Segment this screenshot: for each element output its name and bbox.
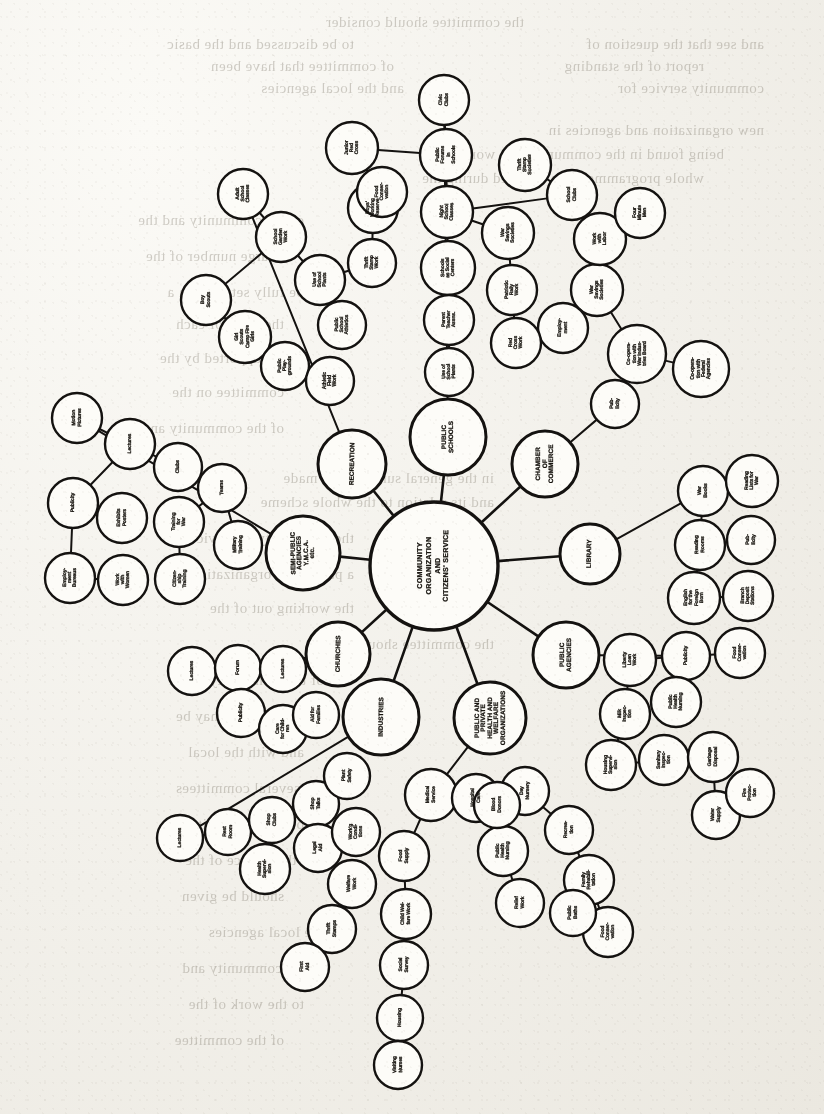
edge xyxy=(570,420,597,443)
satellite-node-circle xyxy=(281,943,329,991)
satellite-node-circle xyxy=(608,325,666,383)
edge xyxy=(298,256,303,262)
edge xyxy=(90,462,112,485)
hub-node-chamber-circle xyxy=(512,431,578,497)
edge xyxy=(225,253,262,284)
node-circle-layer xyxy=(45,75,778,1089)
edge xyxy=(665,361,674,363)
satellite-node-circle xyxy=(419,75,469,125)
satellite-node-circle xyxy=(615,188,665,238)
edge xyxy=(472,220,484,224)
satellite-node-circle xyxy=(306,357,354,405)
satellite-node-circle xyxy=(499,139,551,191)
satellite-node-circle xyxy=(550,890,596,936)
satellite-node-circle xyxy=(52,393,102,443)
edge xyxy=(340,557,370,560)
satellite-node-circle xyxy=(591,380,639,428)
satellite-node-circle xyxy=(723,571,773,621)
satellite-node-circle xyxy=(157,815,203,861)
edge xyxy=(414,819,420,833)
satellite-node-circle xyxy=(727,516,775,564)
satellite-node-circle xyxy=(380,941,428,989)
edge xyxy=(71,528,72,553)
satellite-node-circle xyxy=(405,769,457,821)
satellite-node-circle xyxy=(357,167,407,217)
satellite-node-circle xyxy=(487,265,537,315)
satellite-node-circle xyxy=(726,769,774,817)
satellite-node-circle xyxy=(600,689,650,739)
hub-node-recreation-circle xyxy=(318,430,386,498)
scanned-page: the committee should considerand see tha… xyxy=(0,0,824,1114)
satellite-node-circle xyxy=(377,995,423,1041)
edge xyxy=(373,490,394,516)
community-organization-chart: COMMUNITY ORGANIZATION AND CITIZENS' SER… xyxy=(0,0,824,1114)
edge xyxy=(447,747,468,775)
satellite-node-circle xyxy=(662,632,710,680)
satellite-node-circle xyxy=(421,186,473,238)
satellite-node-circle xyxy=(48,478,98,528)
satellite-node-circle xyxy=(240,844,290,894)
satellite-node-circle xyxy=(198,464,246,512)
core-node-circle xyxy=(370,502,498,630)
satellite-node-circle xyxy=(688,732,738,782)
satellite-node-circle xyxy=(482,207,534,259)
chart-svg xyxy=(0,0,824,1114)
edge xyxy=(362,609,387,632)
satellite-node-circle xyxy=(348,239,396,287)
satellite-node-circle xyxy=(538,303,588,353)
hub-node-public-agencies-circle xyxy=(533,622,599,688)
satellite-node-circle xyxy=(324,753,370,799)
edge xyxy=(228,511,231,522)
satellite-node-circle xyxy=(374,1041,422,1089)
satellite-node-circle xyxy=(249,797,295,843)
hub-node-semi-public-circle xyxy=(266,516,340,590)
satellite-node-circle xyxy=(381,889,431,939)
satellite-node-circle xyxy=(424,295,474,345)
edge xyxy=(441,475,444,503)
edge xyxy=(498,556,560,561)
hub-node-public-schools-circle xyxy=(410,399,486,475)
edge xyxy=(481,486,521,522)
edge xyxy=(378,150,420,153)
satellite-node-circle xyxy=(295,255,345,305)
satellite-node-circle xyxy=(214,521,262,569)
hub-node-industries-circle xyxy=(343,679,419,755)
satellite-node-circle xyxy=(261,342,309,390)
satellite-node-circle xyxy=(215,645,261,691)
satellite-node-circle xyxy=(420,129,472,181)
satellite-node-circle xyxy=(217,689,265,737)
satellite-node-circle xyxy=(45,553,95,603)
satellite-node-circle xyxy=(98,555,148,605)
satellite-node-circle xyxy=(218,169,268,219)
satellite-node-circle xyxy=(154,497,204,547)
satellite-node-circle xyxy=(105,419,155,469)
satellite-node-circle xyxy=(474,782,520,828)
edge xyxy=(394,626,413,681)
satellite-node-circle xyxy=(256,212,306,262)
satellite-node-circle xyxy=(379,831,429,881)
satellite-node-circle xyxy=(491,318,541,368)
edge xyxy=(456,626,477,684)
satellite-node-circle xyxy=(496,879,544,927)
satellite-node-circle xyxy=(651,677,701,727)
edge xyxy=(487,602,539,637)
satellite-node-circle xyxy=(421,241,475,295)
satellite-node-circle xyxy=(639,735,689,785)
satellite-node-circle xyxy=(326,122,378,174)
satellite-node-circle xyxy=(318,301,366,349)
satellite-node-circle xyxy=(181,275,231,325)
satellite-node-circle xyxy=(726,455,778,507)
satellite-node-circle xyxy=(205,809,251,855)
satellite-node-circle xyxy=(545,806,593,854)
satellite-node-circle xyxy=(168,647,216,695)
satellite-node-circle xyxy=(675,520,725,570)
satellite-node-circle xyxy=(604,634,656,686)
edge xyxy=(616,503,681,539)
satellite-node-circle xyxy=(478,826,528,876)
edge xyxy=(543,807,551,814)
satellite-node-circle xyxy=(155,554,205,604)
satellite-node-circle xyxy=(547,170,597,220)
satellite-node-circle xyxy=(668,572,720,624)
satellite-node-circle xyxy=(328,860,376,908)
satellite-node-circle xyxy=(586,740,636,790)
